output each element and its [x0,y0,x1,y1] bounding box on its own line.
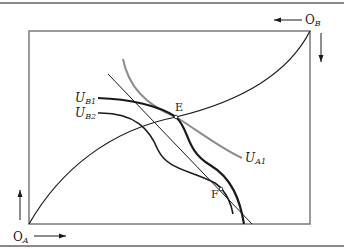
indifference-curve-ub1 [98,98,244,224]
ua1-label: UA1 [245,152,266,166]
point-f-marker [219,187,223,191]
point-f-text: F [211,188,219,201]
ub2-sub: B2 [85,112,96,121]
ub2-base: U [75,106,85,120]
origin-a-sub: A [23,236,29,245]
edgeworth-box-figure: OB OA E F UB1 UB2 UA1 [0,0,344,249]
point-e-text: E [175,101,183,114]
contract-curve [29,31,310,224]
price-line [108,74,252,224]
ua1-sub: A1 [255,157,266,166]
ub1-label: UB1 [75,92,96,106]
diagram-canvas [0,0,344,249]
origin-b-base: O [305,13,315,27]
ua1-base: U [245,151,255,165]
origin-b-label: OB [305,14,321,28]
point-e-marker [174,115,178,119]
ub1-sub: B1 [85,97,96,106]
ub2-label: UB2 [75,107,96,121]
point-f-label: F [211,189,219,200]
origin-a-label: OA [13,231,29,245]
point-e-label: E [175,102,183,113]
origin-b-sub: B [315,19,321,28]
origin-a-base: O [13,230,23,244]
ub1-base: U [75,91,85,105]
box-frame [29,31,310,224]
